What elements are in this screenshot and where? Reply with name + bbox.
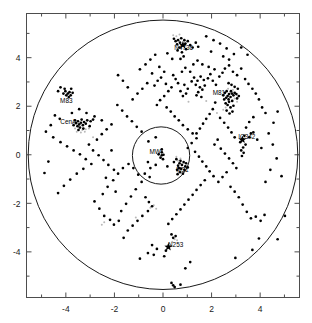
data-point — [284, 215, 287, 218]
data-point — [205, 117, 208, 120]
data-point — [70, 87, 73, 90]
data-point — [141, 215, 144, 218]
data-point — [177, 119, 180, 122]
data-point — [225, 109, 228, 112]
faint-data-point — [155, 208, 157, 210]
data-point — [258, 98, 261, 101]
data-point — [172, 236, 175, 239]
data-point — [122, 167, 125, 170]
data-point — [191, 193, 194, 196]
data-point — [232, 94, 235, 97]
data-point — [242, 146, 245, 149]
data-point — [63, 184, 66, 187]
data-point — [244, 78, 247, 81]
data-point — [162, 153, 165, 156]
data-point — [159, 99, 162, 102]
data-point — [113, 223, 116, 226]
group-label-mw: MW — [150, 148, 162, 155]
data-point — [183, 39, 186, 42]
data-point — [151, 72, 154, 75]
data-point — [64, 90, 67, 93]
data-point — [143, 172, 146, 175]
data-point — [97, 154, 100, 157]
data-point — [195, 94, 198, 97]
data-point — [105, 176, 108, 179]
data-point — [221, 71, 224, 74]
data-point — [183, 203, 186, 206]
data-point — [57, 192, 60, 195]
data-point — [211, 79, 214, 82]
data-point — [258, 237, 261, 240]
data-point — [173, 286, 176, 289]
data-point — [182, 161, 185, 164]
data-point — [140, 130, 143, 133]
data-point — [136, 219, 139, 222]
data-point — [242, 151, 245, 154]
data-point — [101, 193, 104, 196]
data-point — [80, 121, 83, 124]
data-point — [71, 112, 74, 115]
data-point — [163, 255, 166, 258]
data-point — [110, 149, 113, 152]
y-tick-label: 4 — [16, 53, 21, 63]
data-point — [148, 176, 151, 179]
data-point — [102, 159, 105, 162]
x-tick-label: 4 — [258, 304, 263, 314]
data-point — [219, 42, 222, 45]
x-tick-label: 2 — [209, 304, 214, 314]
data-point — [140, 181, 143, 184]
data-point — [178, 162, 181, 165]
data-point — [54, 114, 57, 117]
data-point — [219, 147, 222, 150]
data-point — [179, 90, 182, 93]
data-point — [52, 136, 55, 139]
data-point — [69, 178, 72, 181]
data-point — [170, 282, 173, 285]
x-tick-label: -4 — [62, 304, 70, 314]
data-point — [212, 39, 215, 42]
data-point — [96, 138, 99, 141]
data-point — [84, 122, 87, 125]
data-point — [86, 119, 89, 122]
data-point — [228, 58, 231, 61]
data-point — [84, 158, 87, 161]
data-point — [175, 158, 178, 161]
data-point — [71, 92, 74, 95]
data-point — [89, 120, 92, 123]
data-point — [182, 55, 185, 58]
data-point — [233, 53, 236, 56]
data-point — [156, 104, 159, 107]
y-tick-label: 0 — [16, 150, 21, 160]
data-point — [130, 195, 133, 198]
data-point — [247, 83, 250, 86]
data-point — [229, 185, 232, 188]
data-point — [207, 77, 210, 80]
data-point — [189, 261, 192, 264]
data-point — [227, 126, 230, 129]
data-point — [179, 208, 182, 211]
data-point — [246, 53, 249, 56]
data-point — [199, 127, 202, 130]
data-point — [252, 116, 255, 119]
data-point — [173, 37, 176, 40]
data-point — [199, 75, 202, 78]
data-point — [80, 118, 83, 121]
data-point — [179, 283, 182, 286]
faint-data-point — [85, 128, 87, 130]
data-point — [117, 172, 120, 175]
data-point — [186, 40, 189, 43]
data-point — [179, 58, 182, 61]
data-point — [195, 189, 198, 192]
data-point — [176, 173, 179, 176]
data-point — [244, 143, 247, 146]
data-point — [47, 160, 50, 163]
data-point — [66, 145, 69, 148]
data-point — [169, 110, 172, 113]
data-point — [251, 87, 254, 90]
group-label-ic342: IC342 — [238, 133, 255, 140]
data-point — [230, 131, 233, 134]
data-point — [211, 108, 214, 111]
data-point — [134, 188, 137, 191]
data-point — [100, 133, 103, 136]
data-point — [132, 167, 135, 170]
